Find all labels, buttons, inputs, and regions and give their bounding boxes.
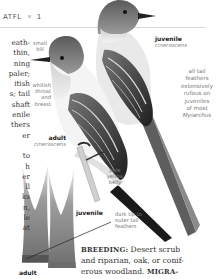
body-text-line: er	[0, 172, 30, 182]
body-text-line: ning	[0, 59, 30, 69]
label-line: of most	[178, 105, 216, 112]
label-small-bill: small bill	[28, 40, 52, 52]
label-line: extensively	[178, 83, 216, 90]
body-text-line	[0, 141, 30, 151]
body-text-line: thin,	[0, 48, 30, 58]
body-text-line: to	[0, 151, 30, 161]
label-line: all tail	[178, 68, 216, 75]
label-title: adult	[30, 134, 66, 141]
body-text-line: itish	[0, 79, 30, 89]
label-adult-bird: adult cinerascens	[30, 134, 66, 147]
body-text-line: s; tail	[0, 89, 30, 99]
body-text-line: at	[0, 223, 30, 233]
label-line: belly	[104, 179, 126, 185]
label-juvenile-feather: juvenile	[76, 209, 103, 216]
label-line: juveniles	[178, 98, 216, 105]
label-pale-belly: pale yellow belly	[104, 167, 126, 186]
label-line: breast	[27, 101, 51, 107]
body-text-line: ks	[0, 192, 30, 202]
breeding-paragraph: BREEDING: Desert scrub and riparian, oak…	[81, 245, 216, 277]
label-line: Myiarchus	[178, 112, 216, 119]
label-line: feathers	[178, 75, 216, 82]
breeding-heading: BREEDING:	[81, 246, 128, 254]
body-text-line: paler;	[0, 69, 30, 79]
label-subtitle: cinerascens	[30, 141, 66, 147]
body-text-line: er	[0, 131, 30, 141]
label-title: juvenile	[155, 35, 205, 42]
label-juvenile-bird: juvenile cinerascens	[155, 35, 205, 48]
label-line: bill	[28, 46, 52, 52]
label-whitish-throat: whitish throat and breast	[27, 82, 51, 107]
body-text-line: n,	[0, 203, 30, 213]
label-line: feathers	[115, 223, 155, 229]
body-text-line: h	[0, 162, 30, 172]
label-adult-feather: adult	[19, 269, 37, 276]
paragraph-text: Desert scrub	[128, 245, 180, 254]
body-text-column: eath- thin, ning paler; itish s; tail sh…	[0, 38, 30, 234]
body-text-line: le	[0, 213, 30, 223]
body-text-line: enile	[0, 110, 30, 120]
label-line: rufous on	[178, 90, 216, 97]
body-text-line: ll	[0, 182, 30, 192]
label-subtitle: cinerascens	[155, 42, 205, 48]
body-text-line: shaft	[0, 100, 30, 110]
body-text-line: thers	[0, 120, 30, 130]
paragraph-text: erous woodland.	[81, 267, 147, 276]
paragraph-text: and riparian, oak, or conif-	[81, 256, 216, 267]
body-text-line: eath-	[0, 38, 30, 48]
label-tail-note: all tail feathers extensively rufous on …	[178, 68, 216, 120]
migration-heading: MIGRA-	[147, 268, 178, 276]
label-dark-tip: dark tip to outer tail feathers	[115, 211, 155, 230]
